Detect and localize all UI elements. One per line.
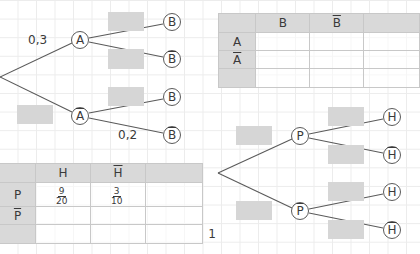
prob-abar-bbar: 0,2: [118, 128, 137, 142]
cell-a-bbar[interactable]: [310, 33, 364, 51]
cell-total-h[interactable]: [36, 225, 91, 244]
row-label-total: [219, 69, 256, 88]
prob-a: 0,3: [28, 33, 47, 47]
cell-total-b[interactable]: [256, 69, 310, 88]
blank-prob-a-bbar[interactable]: [108, 49, 144, 69]
node-b-under-abar: B: [163, 88, 181, 106]
contingency-table-ab: B B A A 1: [218, 13, 420, 88]
cell-abar-total[interactable]: [364, 51, 420, 69]
contingency-table-ph: H H P 920 310 P 1: [0, 163, 203, 244]
header-h: H: [36, 164, 91, 183]
node-h: H: [383, 108, 401, 126]
cell-pbar-h[interactable]: [36, 207, 91, 225]
blank-prob-abar-b[interactable]: [108, 87, 144, 106]
header-b: B: [256, 14, 310, 33]
blank-prob-p[interactable]: [236, 126, 272, 145]
header-b-bar: B: [310, 14, 364, 33]
cell-abar-b[interactable]: [256, 51, 310, 69]
row-label-a: A: [219, 33, 256, 51]
blank-prob-p-h[interactable]: [328, 107, 364, 126]
blank-prob-pbar-hbar[interactable]: [328, 220, 364, 239]
row-label-p: P: [0, 183, 36, 207]
header-total: [146, 164, 203, 183]
header-corner: [219, 14, 256, 33]
row-label-p-bar: P: [0, 207, 36, 225]
cell-total-hbar[interactable]: [91, 225, 146, 244]
row-label-total: [0, 225, 36, 244]
blank-prob-a-b[interactable]: [108, 12, 144, 31]
cell-p-h: 920: [36, 183, 91, 207]
cell-a-total[interactable]: [364, 33, 420, 51]
cell-grand-total: 1: [146, 225, 203, 244]
header-total: [364, 14, 420, 33]
blank-prob-abar[interactable]: [17, 105, 53, 124]
node-b-bar: B: [163, 50, 181, 68]
cell-p-total[interactable]: [146, 183, 203, 207]
cell-pbar-total[interactable]: [146, 207, 203, 225]
fraction-9-20: 920: [56, 187, 67, 206]
node-h-bar: H: [383, 146, 401, 164]
cell-grand-total: 1: [364, 69, 420, 88]
cell-pbar-hbar[interactable]: [91, 207, 146, 225]
node-a-bar: A: [71, 107, 89, 125]
node-p: P: [291, 127, 309, 145]
node-p-bar: P: [291, 202, 309, 220]
cell-total-bbar[interactable]: [310, 69, 364, 88]
node-a: A: [71, 31, 89, 49]
blank-prob-pbar-h[interactable]: [328, 182, 364, 201]
node-b-bar-under-abar: B: [163, 126, 181, 144]
cell-p-hbar: 310: [91, 183, 146, 207]
header-corner: [0, 164, 36, 183]
blank-prob-p-hbar[interactable]: [328, 145, 364, 164]
blank-prob-pbar[interactable]: [236, 201, 272, 220]
row-label-a-bar: A: [219, 51, 256, 69]
node-h-bar-under-pbar: H: [383, 221, 401, 239]
node-b: B: [163, 13, 181, 31]
fraction-3-10: 310: [111, 187, 122, 206]
cell-a-b[interactable]: [256, 33, 310, 51]
cell-abar-bbar[interactable]: [310, 51, 364, 69]
node-h-under-pbar: H: [383, 183, 401, 201]
header-h-bar: H: [91, 164, 146, 183]
